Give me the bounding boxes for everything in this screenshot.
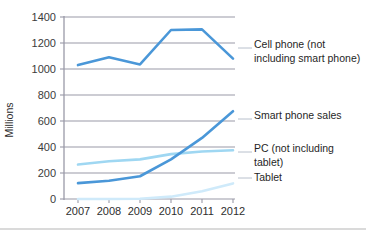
- series-label-smart-phone-sales: Smart phone sales: [254, 109, 342, 121]
- series-line-cell-phone: [78, 29, 233, 65]
- series-label-pc-line1: PC (not including: [254, 142, 334, 154]
- series-line-pc: [78, 150, 233, 164]
- x-tick-label-2008: 2008: [97, 205, 121, 217]
- y-tick-label-1000: 1000: [32, 63, 56, 75]
- x-tick-label-2011: 2011: [190, 205, 214, 217]
- x-tick-label-2012: 2012: [221, 205, 245, 217]
- y-tick-label-400: 400: [38, 141, 56, 153]
- series-label-pc-line2: tablet): [254, 156, 283, 168]
- x-tick-label-2007: 2007: [66, 205, 90, 217]
- series-label-cell-phone-line1: Cell phone (not: [254, 38, 325, 50]
- y-axis: [60, 16, 64, 200]
- y-tick-label-200: 200: [38, 167, 56, 179]
- x-tick-label-2010: 2010: [159, 205, 183, 217]
- series-label-cell-phone-line2: including smart phone): [254, 52, 360, 64]
- y-tick-label-1400: 1400: [32, 11, 56, 23]
- chart-container: 1400 1200 1000 800 600 400 200 0 Million…: [0, 0, 366, 237]
- x-tick-labels: 2007 2008 2009 2010 2011 2012: [66, 205, 245, 217]
- series-labels: Cell phone (not including smart phone) S…: [254, 38, 360, 183]
- x-tick-label-2009: 2009: [128, 205, 152, 217]
- y-tick-labels: 1400 1200 1000 800 600 400 200 0: [32, 11, 56, 205]
- series-line-tablet: [78, 183, 233, 199]
- label-leader-lines: [238, 48, 252, 178]
- y-axis-title: Millions: [3, 102, 15, 137]
- line-chart: 1400 1200 1000 800 600 400 200 0 Million…: [0, 0, 366, 237]
- y-tick-label-800: 800: [38, 89, 56, 101]
- y-tick-label-600: 600: [38, 115, 56, 127]
- y-tick-label-0: 0: [50, 193, 56, 205]
- y-tick-label-1200: 1200: [32, 37, 56, 49]
- series-label-tablet: Tablet: [254, 171, 282, 183]
